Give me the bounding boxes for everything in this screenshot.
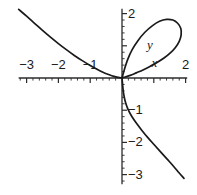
curve-folium-branch-upper-left [19, 9, 122, 78]
plot-canvas [0, 0, 197, 195]
curve-paths-group [19, 9, 184, 178]
y-tick-label--1: −1 [128, 103, 143, 116]
y-tick-label--3: −3 [128, 168, 143, 181]
y-tick-label--2: −2 [128, 135, 143, 148]
tick-marks-group [20, 14, 185, 181]
axes-group [19, 9, 188, 184]
axis-name-label-x: x [152, 56, 158, 69]
y-tick-label-2: 2 [128, 7, 135, 20]
x-tick-label-2: 2 [182, 58, 189, 71]
x-tick-label--3: −3 [19, 58, 34, 71]
x-tick-label--1: −1 [83, 58, 98, 71]
x-tick-label--2: −2 [51, 58, 66, 71]
curve-folium-branch-lower-right [122, 78, 184, 178]
curve-plot-figure: −3−2−122−1−2−3 yx [0, 0, 197, 195]
axis-name-label-y: y [147, 38, 153, 51]
